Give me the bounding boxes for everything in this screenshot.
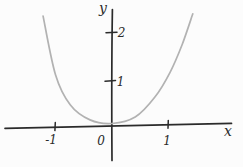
origin-label: 0 [97,134,105,148]
y-tick-label-2: 2 [117,26,126,40]
y-tick-label-1: 1 [117,75,125,89]
y-tick-2 [106,32,117,33]
x-axis-line [5,123,232,128]
x-tick-label-1: 1 [163,134,171,148]
x-tick-label-minus1: -1 [45,133,57,147]
y-axis-label: y [98,0,108,16]
x-axis-label: x [224,123,232,139]
y-tick-1 [105,81,116,82]
figure-canvas: y x 2 1 -1 0 1 [0,0,243,167]
parabola-plot: y x 2 1 -1 0 1 [0,0,243,167]
